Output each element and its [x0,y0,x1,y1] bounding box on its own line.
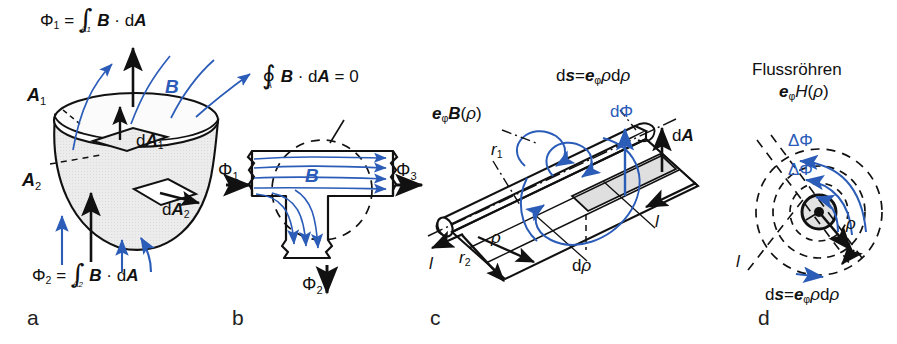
leader-closed-surface [330,120,344,143]
figure-vector-layer [0,0,897,344]
length-arrow-right [646,183,696,207]
label-drho-c: dρ [572,256,591,276]
flux2-formula-a: Φ₁ Φ2 = ∫A2 B · dA [32,265,138,289]
label-flussroehren-d: Flussröhren [752,60,842,80]
label-B-b: B [305,165,319,187]
label-length-right-c: l [655,212,659,232]
panel-letter-a: a [27,306,39,330]
label-ds-c: ds=eφρdρ [556,66,630,86]
strip-cross-1 [534,214,587,261]
panel-letter-b: b [232,306,244,330]
label-A1-a: A1 [27,85,46,107]
label-length-left-c: l [429,254,433,274]
label-r1-c: r1 [491,140,503,160]
label-dA2-a: dA2 [162,200,190,220]
label-delta-phi-outer-d: ΔΦ [788,131,813,151]
label-flux1-b: Φ1 [218,160,239,182]
label-A2-a: A2 [22,170,41,192]
label-dA1-a: dA1 [136,131,164,151]
label-r2-c: r2 [459,248,471,268]
panel-d-graphics [748,135,882,277]
label-ephi-H-d: eφH(ρ) [779,82,829,102]
label-length-d: l [736,252,740,272]
label-flux3-b: Φ3 [396,160,417,182]
panel-letter-d: d [758,306,770,330]
label-ephi-B-c: eφB(ρ) [432,104,482,124]
b-loop-c-1 [517,131,565,166]
flux1-formula-a: Φ₁ = ∫ B · dA Φ1 = ∫A1 B · dA [40,10,146,34]
label-ds-d: ds=eφρdρ [765,285,839,305]
label-rho-c: ρ [491,228,501,248]
panel-b-graphics [226,120,422,293]
rho-arrow-c [478,237,534,262]
panel-letter-c: c [430,306,441,330]
label-delta-phi-inner-d: ΔΦ [788,160,813,180]
label-rho-d: ρ [846,214,856,234]
figure-canvas: Φ₁ = ∫ B · dA Φ1 = ∫A1 B · dA A1 A2 B dA… [0,0,897,344]
label-B-a: B [165,76,179,98]
closed-integral-formula-b: ∮A B · dA = 0 [262,66,359,90]
label-flux2-b: Φ2 [302,274,323,296]
b-field-line-4 [196,74,250,117]
label-dA-c: dA [672,126,694,146]
label-dphi-c: dΦ [610,102,633,122]
